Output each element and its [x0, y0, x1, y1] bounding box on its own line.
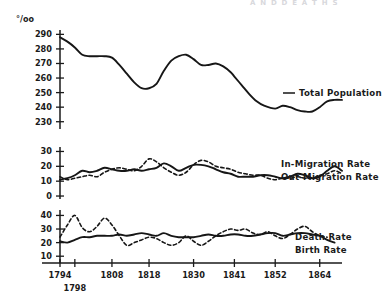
birth-rate-label: Birth Rate [295, 245, 347, 255]
x-tick-label: 1841 [223, 270, 246, 280]
y-tick-label: 30 [41, 224, 53, 234]
y-tick-label: 290 [35, 29, 52, 39]
y-tick-label: 30 [41, 146, 53, 156]
x-tick-label: 1864 [308, 270, 331, 280]
x-tick-label: 1852 [264, 270, 287, 280]
x-tick-label: 1794 [49, 270, 72, 280]
x-tick-label: 1798 [63, 283, 86, 293]
total-population-curve [60, 37, 342, 112]
panel-total-population: °/oo 230240250260270280290 Total Populat… [16, 15, 382, 129]
migration-y-tick-labels: 0102030 [41, 146, 53, 201]
x-tick-label: 1830 [182, 270, 205, 280]
birth-rate-curve [60, 233, 335, 243]
x-tick-label: 1808 [101, 270, 124, 280]
y-tick-label: 280 [35, 44, 52, 54]
panel-vital-rates: 10203040 Death Rate Birth Rate [41, 210, 352, 263]
panel-migration: 0102030 In-Migration Rate Out-Migration … [41, 146, 379, 201]
population-y-tick-labels: 230240250260270280290 [35, 29, 52, 126]
out-migration-rate-label: Out-Migration Rate [281, 172, 379, 182]
y-tick-label: 260 [35, 73, 52, 83]
chart-canvas: °/oo 230240250260270280290 Total Populat… [0, 0, 388, 299]
y-tick-label: 230 [35, 117, 52, 127]
y-tick-label: 10 [41, 176, 53, 186]
y-tick-label: 0 [46, 191, 52, 201]
y-tick-label: 10 [41, 251, 53, 261]
total-population-label: Total Population [299, 88, 382, 98]
y-tick-label: 40 [41, 210, 53, 220]
y-tick-label: 250 [35, 88, 52, 98]
y-tick-label: 20 [41, 161, 53, 171]
y-tick-label: 20 [41, 238, 53, 248]
x-tick-label: 1818 [138, 270, 161, 280]
vital-y-tick-labels: 10203040 [41, 210, 53, 261]
death-rate-curve [60, 215, 327, 245]
x-axis-tick-labels: 17941798180818181830184118521864 [49, 270, 332, 293]
death-rate-label: Death Rate [295, 232, 352, 242]
in-migration-rate-label: In-Migration Rate [281, 159, 370, 169]
x-axis: 17941798180818181830184118521864 [42, 259, 342, 293]
y-tick-label: 270 [35, 58, 52, 68]
y-tick-label: 240 [35, 102, 52, 112]
faded-page-header: A N D D E A T H S [250, 0, 339, 7]
unit-label-permille: °/oo [16, 15, 34, 24]
chart-figure: A N D D E A T H S °/oo 23024025026027028… [0, 0, 388, 299]
